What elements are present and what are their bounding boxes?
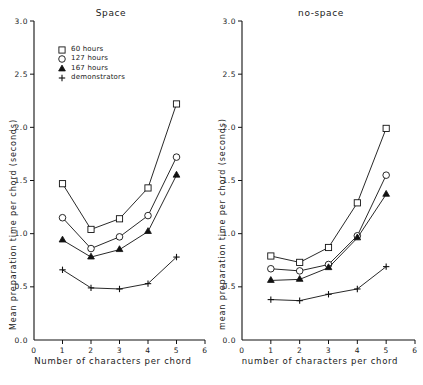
legend-item: 127 hours xyxy=(57,54,125,63)
circle-marker-icon xyxy=(59,214,66,221)
x-tick-label: 3 xyxy=(111,346,129,355)
x-tick-label: 2 xyxy=(82,346,100,355)
triangle-marker-icon xyxy=(173,171,180,177)
triangle-marker-icon xyxy=(383,190,390,196)
y-tick-label: 0.5 xyxy=(209,282,236,291)
plus-marker-icon xyxy=(59,267,65,273)
series-60-hours xyxy=(268,125,390,265)
square-marker-icon xyxy=(383,125,389,131)
square-marker-icon xyxy=(297,259,303,265)
square-marker-icon xyxy=(145,185,151,191)
square-marker-icon xyxy=(173,101,179,107)
square-marker-icon xyxy=(59,47,65,53)
square-marker-icon xyxy=(59,181,65,187)
circle-marker-icon xyxy=(57,54,69,63)
series-127-hours xyxy=(268,172,390,274)
y-tick-label: 1.0 xyxy=(209,229,236,238)
square-marker-icon xyxy=(57,45,69,54)
x-tick-label: 2 xyxy=(291,346,309,355)
y-tick-label: 0.0 xyxy=(1,336,28,345)
circle-marker-icon xyxy=(145,212,152,219)
y-tick-label: 3.0 xyxy=(209,17,236,26)
plot-area xyxy=(212,0,423,385)
legend-item: 60 hours xyxy=(57,45,125,54)
x-tick-label: 4 xyxy=(348,346,366,355)
legend-item-label: 60 hours xyxy=(69,45,103,54)
y-tick-label: 2.0 xyxy=(209,123,236,132)
triangle-marker-icon xyxy=(57,64,69,73)
circle-marker-icon xyxy=(88,245,95,252)
y-tick-label: 2.5 xyxy=(209,70,236,79)
x-tick-label: 5 xyxy=(168,346,186,355)
series-127-hours xyxy=(59,154,180,252)
x-tick-label: 0 xyxy=(25,346,43,355)
legend-item: demonstrators xyxy=(57,73,125,82)
y-tick-label: 1.0 xyxy=(1,229,28,238)
legend: 60 hours127 hours167 hoursdemonstrators xyxy=(57,45,125,83)
y-tick-label: 0.5 xyxy=(1,282,28,291)
y-tick-label: 1.5 xyxy=(209,176,236,185)
circle-marker-icon xyxy=(116,234,123,241)
legend-item-label: demonstrators xyxy=(69,73,125,82)
x-tick-label: 0 xyxy=(233,346,251,355)
plus-marker-icon xyxy=(57,73,69,82)
legend-item: 167 hours xyxy=(57,64,125,73)
plus-marker-icon xyxy=(296,297,302,303)
triangle-marker-icon xyxy=(267,277,274,283)
legend-item-label: 127 hours xyxy=(69,54,108,63)
series-demonstrators xyxy=(59,254,179,292)
square-marker-icon xyxy=(88,226,94,232)
series-167-hours xyxy=(267,190,389,282)
x-tick-label: 6 xyxy=(406,346,423,355)
plus-marker-icon xyxy=(325,291,331,297)
circle-marker-icon xyxy=(296,268,303,275)
triangle-marker-icon xyxy=(59,236,66,242)
square-marker-icon xyxy=(325,244,331,250)
figure: Space Mean preparation time per chord (s… xyxy=(0,0,423,385)
series-60-hours xyxy=(59,101,179,233)
series-167-hours xyxy=(59,171,180,259)
x-tick-label: 1 xyxy=(54,346,72,355)
plus-marker-icon xyxy=(59,75,65,81)
chart-panel-no-space: no-space mean preparation time per chord… xyxy=(212,0,423,385)
circle-marker-icon xyxy=(59,56,66,63)
chart-panel-space: Space Mean preparation time per chord (s… xyxy=(0,0,211,385)
y-tick-label: 3.0 xyxy=(1,17,28,26)
legend-item-label: 167 hours xyxy=(69,64,108,73)
triangle-marker-icon xyxy=(59,65,66,71)
x-tick-label: 1 xyxy=(262,346,280,355)
circle-marker-icon xyxy=(268,265,275,272)
circle-marker-icon xyxy=(383,172,390,179)
square-marker-icon xyxy=(354,200,360,206)
x-tick-label: 3 xyxy=(320,346,338,355)
square-marker-icon xyxy=(116,216,122,222)
x-tick-label: 5 xyxy=(377,346,395,355)
x-tick-label: 4 xyxy=(139,346,157,355)
plus-marker-icon xyxy=(268,296,274,302)
square-marker-icon xyxy=(268,253,274,259)
y-tick-label: 0.0 xyxy=(209,336,236,345)
y-tick-label: 1.5 xyxy=(1,176,28,185)
y-tick-label: 2.0 xyxy=(1,123,28,132)
plus-marker-icon xyxy=(88,285,94,291)
plus-marker-icon xyxy=(116,286,122,292)
triangle-marker-icon xyxy=(145,228,152,234)
circle-marker-icon xyxy=(173,154,180,161)
y-tick-label: 2.5 xyxy=(1,70,28,79)
